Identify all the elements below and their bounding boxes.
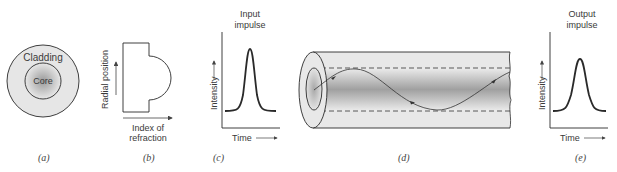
output-time-label: Time [560, 133, 580, 143]
cladding-label: Cladding [23, 52, 62, 63]
output-pulse-curve [553, 59, 606, 111]
index-label-1: Index of [132, 123, 165, 133]
output-title-2: impulse [566, 20, 597, 30]
caption-c: (c) [213, 152, 225, 164]
input-time-label: Time [232, 133, 252, 143]
output-intensity-label: Intensity [537, 76, 547, 110]
input-pulse-curve [225, 49, 276, 111]
optical-fiber-diagram: Cladding Core (a) Radial position Index … [0, 0, 617, 172]
input-title-2: impulse [234, 20, 265, 30]
fiber-core-body [313, 68, 510, 111]
panel-b-index-profile: Radial position Index of refraction (b) [100, 43, 172, 164]
index-label-2: refraction [129, 133, 167, 143]
panel-e-output-impulse: Output impulse Intensity Time (e) [537, 9, 608, 164]
caption-a: (a) [38, 152, 50, 164]
fiber-end-core [306, 68, 322, 110]
output-title-1: Output [568, 9, 596, 19]
radial-position-label: Radial position [100, 50, 110, 109]
panel-d-fiber: (d) [299, 52, 511, 164]
panel-a-cross-section: Cladding Core (a) [7, 45, 79, 164]
caption-e: (e) [575, 152, 587, 164]
caption-b: (b) [143, 152, 155, 164]
input-title-1: Input [240, 9, 261, 19]
caption-d: (d) [398, 152, 410, 164]
input-intensity-label: Intensity [209, 76, 219, 110]
index-profile-curve [123, 43, 171, 112]
core-label: Core [33, 76, 53, 86]
panel-c-input-impulse: Input impulse Intensity Time (c) [209, 9, 280, 164]
